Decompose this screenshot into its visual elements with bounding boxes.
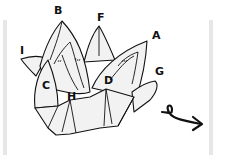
label-c: C	[42, 80, 50, 91]
turn-over-arrow-icon	[162, 106, 202, 131]
label-d: D	[104, 75, 113, 86]
label-f: F	[97, 12, 105, 23]
label-b: B	[54, 5, 62, 16]
label-g: G	[155, 66, 164, 77]
label-a: A	[152, 30, 161, 41]
label-i: I	[20, 45, 24, 56]
label-h: H	[67, 91, 76, 102]
petal-f	[84, 26, 115, 62]
